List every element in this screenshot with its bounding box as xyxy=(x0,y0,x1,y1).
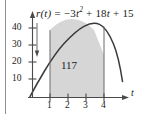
function-formula-label: r(t) = −3t2 + 18t + 15 xyxy=(36,8,134,19)
x-axis-variable-label: t xyxy=(131,88,134,98)
y-tick-label-10: 10 xyxy=(12,74,22,84)
x-axis-arrowhead xyxy=(122,95,129,100)
x-tick-label-1: 1 xyxy=(47,101,52,111)
shaded-area-value-label: 117 xyxy=(61,60,77,71)
formula-term3-const: 15 xyxy=(122,7,133,19)
y-tick-label-40: 40 xyxy=(12,23,22,33)
formula-leader-arrowhead xyxy=(35,51,39,58)
formula-term2-coeff: 18 xyxy=(95,7,106,19)
y-tick-label-30: 30 xyxy=(12,40,22,50)
formula-lhs: r(t) xyxy=(36,7,51,19)
graph-figure: r(t) = −3t2 + 18t + 15 117 40 30 20 10 1… xyxy=(0,0,144,114)
y-axis-arrowhead xyxy=(30,11,35,18)
x-tick-label-3: 3 xyxy=(83,101,88,111)
x-tick-label-4: 4 xyxy=(101,101,106,111)
x-tick-label-2: 2 xyxy=(65,101,70,111)
y-tick-label-20: 20 xyxy=(12,57,22,67)
